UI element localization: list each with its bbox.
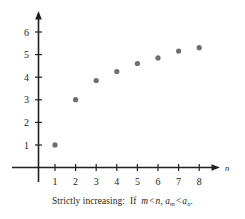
figure-caption: Strictly increasing: If m<n, am<an. xyxy=(0,196,245,206)
x-axis-label: n xyxy=(225,163,229,173)
data-point xyxy=(176,49,181,54)
caption-rel-1: < xyxy=(148,196,155,206)
x-tick-label-3: 3 xyxy=(94,176,99,187)
y-tick-label-4: 4 xyxy=(24,72,29,83)
x-tick-label-5: 5 xyxy=(135,176,140,187)
caption-if-word: If xyxy=(130,196,136,206)
data-point xyxy=(94,78,99,83)
y-tick-label-6: 6 xyxy=(24,27,29,38)
x-tick-label-4: 4 xyxy=(114,176,119,187)
caption-comma: , xyxy=(160,196,162,206)
x-axis-arrow-icon xyxy=(212,164,221,171)
y-tick-label-3: 3 xyxy=(24,94,29,105)
data-point xyxy=(73,97,78,102)
caption-lead: Strictly increasing: xyxy=(52,196,125,206)
y-tick-label-5: 5 xyxy=(24,49,29,60)
caption-subscript-m: m xyxy=(170,200,175,207)
data-point xyxy=(197,45,202,50)
x-tick-label-2: 2 xyxy=(73,176,78,187)
x-tick-label-1: 1 xyxy=(53,176,58,187)
x-tick-label-6: 6 xyxy=(156,176,161,187)
scatter-plot: 1 2 3 4 5 6 1 2 3 4 5 6 7 8 n xyxy=(0,0,245,195)
y-tick-label-2: 2 xyxy=(24,117,29,128)
data-point xyxy=(114,69,119,74)
y-axis-arrow-icon xyxy=(35,11,42,20)
data-point xyxy=(155,55,160,60)
x-tick-label-7: 7 xyxy=(176,176,181,187)
x-tick-label-8: 8 xyxy=(197,176,202,187)
caption-subscript-n: n xyxy=(187,200,190,207)
y-tick-label-1: 1 xyxy=(24,140,29,151)
figure-container: 1 2 3 4 5 6 1 2 3 4 5 6 7 8 n Stri xyxy=(0,0,245,219)
data-point xyxy=(52,142,57,147)
data-point xyxy=(135,61,140,66)
